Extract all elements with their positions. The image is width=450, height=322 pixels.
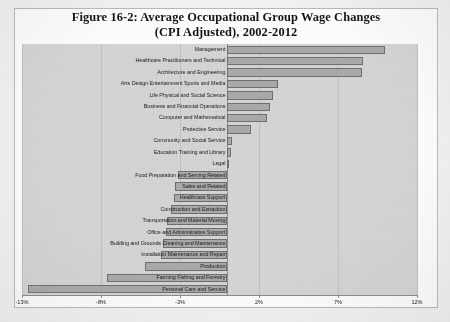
bar-row: Protective Service	[22, 124, 417, 135]
category-label: Sales and Related	[182, 181, 225, 192]
bar[interactable]	[227, 46, 385, 54]
bar[interactable]	[227, 160, 229, 168]
bar-row: Management	[22, 44, 417, 55]
category-label: Production	[200, 261, 225, 272]
bar-row: Legal	[22, 158, 417, 169]
bar[interactable]	[227, 114, 267, 122]
bar-row: Life Physical and Social Science	[22, 90, 417, 101]
category-label: Construction and Extraction	[161, 204, 226, 215]
bar-row: Installation Maintenance and Repair	[22, 249, 417, 260]
bar-row: Business and Financial Operations	[22, 101, 417, 112]
bar[interactable]	[227, 125, 251, 133]
x-tick-mark	[22, 295, 23, 298]
figure-container: Figure 16-2: Average Occupational Group …	[0, 0, 450, 322]
x-tick-mark	[338, 295, 339, 298]
bar-row: Sales and Related	[22, 181, 417, 192]
category-label: Life Physical and Social Science	[149, 90, 225, 101]
category-label: Arts Design Entertainment Sports and Med…	[121, 78, 226, 89]
category-label: Personal Care and Service	[162, 284, 225, 295]
bar[interactable]	[227, 148, 230, 156]
bar-row: Computer and Mathematical	[22, 112, 417, 123]
x-tick-mark	[259, 295, 260, 298]
bar-row: Community and Social Service	[22, 135, 417, 146]
bar[interactable]	[227, 68, 361, 76]
category-label: Installation Maintenance and Repair	[141, 249, 225, 260]
x-tick-label: 2%	[255, 299, 263, 305]
bar-row: Office and Administrative Support	[22, 227, 417, 238]
bar-row: Food Preparation and Serving Related	[22, 170, 417, 181]
x-tick-mark	[417, 295, 418, 298]
bar-row: Healthcare Practitioners and Technical	[22, 55, 417, 66]
bar[interactable]	[227, 103, 270, 111]
x-tick-mark	[101, 295, 102, 298]
gridline	[417, 44, 418, 295]
bar-row: Education Training and Library	[22, 147, 417, 158]
category-label: Management	[194, 44, 225, 55]
bar-row: Transportation and Material Moving	[22, 215, 417, 226]
bar-row: Personal Care and Service	[22, 284, 417, 295]
x-axis-line	[22, 295, 417, 296]
category-label: Healthcare Practitioners and Technical	[135, 55, 225, 66]
category-label: Protective Service	[183, 124, 226, 135]
category-label: Architecture and Engineering	[157, 67, 225, 78]
category-label: Education Training and Library	[154, 147, 226, 158]
category-label: Computer and Mathematical	[159, 112, 225, 123]
x-tick-label: -3%	[175, 299, 185, 305]
bar-row: Arts Design Entertainment Sports and Med…	[22, 78, 417, 89]
category-label: Community and Social Service	[153, 135, 225, 146]
bar[interactable]	[227, 80, 278, 88]
category-label: Healthcare Support	[180, 192, 226, 203]
bar-row: Architecture and Engineering	[22, 67, 417, 78]
figure-title-line-1: Figure 16-2: Average Occupational Group …	[72, 10, 381, 24]
category-label: Building and Grounds Cleaning and Mainte…	[110, 238, 225, 249]
category-label: Transportation and Material Moving	[143, 215, 226, 226]
x-tick-label: 7%	[334, 299, 342, 305]
bar[interactable]	[227, 91, 273, 99]
category-label: Food Preparation and Serving Related	[135, 170, 225, 181]
bar[interactable]	[227, 57, 363, 65]
bar[interactable]	[227, 137, 232, 145]
plot-area: ManagementHealthcare Practitioners and T…	[22, 44, 417, 295]
category-label: Office and Administrative Support	[147, 227, 225, 238]
bar-row: Farming Fishing and Forestry	[22, 272, 417, 283]
bar-row: Construction and Extraction	[22, 204, 417, 215]
bar-row: Healthcare Support	[22, 192, 417, 203]
category-label: Legal	[212, 158, 225, 169]
plot-inner: ManagementHealthcare Practitioners and T…	[22, 44, 417, 295]
category-label: Business and Financial Operations	[144, 101, 226, 112]
x-tick-label: -8%	[96, 299, 106, 305]
category-label: Farming Fishing and Forestry	[156, 272, 225, 283]
bar-row: Production	[22, 261, 417, 272]
x-tick-label: -13%	[15, 299, 28, 305]
bar-row: Building and Grounds Cleaning and Mainte…	[22, 238, 417, 249]
x-tick-label: 12%	[411, 299, 422, 305]
figure-title-line-2: (CPI Adjusted), 2002-2012	[14, 25, 438, 40]
x-tick-mark	[180, 295, 181, 298]
figure-title: Figure 16-2: Average Occupational Group …	[14, 10, 438, 40]
